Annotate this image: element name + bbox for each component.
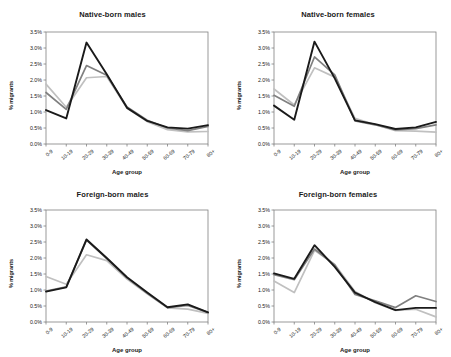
y-axis-tick-label: 3.5% xyxy=(16,207,42,213)
plot-frame xyxy=(274,210,436,322)
y-axis-tick-label: 2.0% xyxy=(244,255,270,261)
y-axis-tick-label: 1.5% xyxy=(244,271,270,277)
y-axis-tick-label: 1.5% xyxy=(16,271,42,277)
x-axis-title: Age group xyxy=(274,347,436,353)
y-axis-tick-label: 2.5% xyxy=(244,239,270,245)
y-axis-tick-label: 0.0% xyxy=(16,141,42,147)
y-axis-tick-label: 0.5% xyxy=(16,125,42,131)
y-axis-tick-label: 0.5% xyxy=(244,303,270,309)
y-axis-tick-label: 2.0% xyxy=(16,255,42,261)
plot-area: 3.5%3.0%2.5%2.0%1.5%1.0%0.5%0.0%0-910-19… xyxy=(0,180,225,357)
plot-area: 3.5%3.0%2.5%2.0%1.5%1.0%0.5%0.0%0-910-19… xyxy=(225,180,451,357)
y-axis-tick-label: 0.0% xyxy=(16,319,42,325)
plot-frame xyxy=(46,32,208,144)
migration-age-profile-figure: Native-born males 3.5%3.0%2.5%2.0%1.5%1.… xyxy=(0,0,451,357)
y-axis-tick-label: 2.0% xyxy=(16,77,42,83)
chart-panel-native-born-females: Native-born females 3.5%3.0%2.5%2.0%1.5%… xyxy=(225,0,451,180)
y-axis-tick-label: 3.0% xyxy=(244,45,270,51)
x-axis-title: Age group xyxy=(46,169,208,175)
y-axis-title: % migrants xyxy=(8,81,14,110)
x-axis-title: Age group xyxy=(274,169,436,175)
y-axis-tick-label: 2.5% xyxy=(16,61,42,67)
plot-area: 3.5%3.0%2.5%2.0%1.5%1.0%0.5%0.0%0-910-19… xyxy=(0,0,225,180)
y-axis-tick-label: 3.0% xyxy=(16,223,42,229)
y-axis-tick-label: 3.5% xyxy=(244,29,270,35)
y-axis-tick-label: 2.5% xyxy=(244,61,270,67)
y-axis-tick-label: 3.5% xyxy=(244,207,270,213)
y-axis-tick-label: 1.0% xyxy=(16,287,42,293)
chart-panel-native-born-males: Native-born males 3.5%3.0%2.5%2.0%1.5%1.… xyxy=(0,0,225,180)
y-axis-tick-label: 1.0% xyxy=(244,109,270,115)
y-axis-tick-label: 0.0% xyxy=(244,319,270,325)
chart-panel-foreign-born-males: Foreign-born males 3.5%3.0%2.5%2.0%1.5%1… xyxy=(0,180,225,357)
y-axis-tick-label: 0.5% xyxy=(16,303,42,309)
chart-panel-foreign-born-females: Foreign-born females 3.5%3.0%2.5%2.0%1.5… xyxy=(225,180,451,357)
y-axis-title: % migrants xyxy=(236,81,242,110)
y-axis-tick-label: 1.0% xyxy=(244,287,270,293)
y-axis-tick-label: 3.5% xyxy=(16,29,42,35)
y-axis-tick-label: 3.0% xyxy=(244,223,270,229)
y-axis-tick-label: 1.0% xyxy=(16,109,42,115)
x-axis-title: Age group xyxy=(46,347,208,353)
y-axis-tick-label: 2.5% xyxy=(16,239,42,245)
y-axis-tick-label: 0.0% xyxy=(244,141,270,147)
y-axis-tick-label: 3.0% xyxy=(16,45,42,51)
y-axis-title: % migrants xyxy=(236,259,242,288)
y-axis-tick-label: 1.5% xyxy=(244,93,270,99)
y-axis-tick-label: 2.0% xyxy=(244,77,270,83)
plot-area: 3.5%3.0%2.5%2.0%1.5%1.0%0.5%0.0%0-910-19… xyxy=(225,0,451,180)
y-axis-title: % migrants xyxy=(8,259,14,288)
y-axis-tick-label: 0.5% xyxy=(244,125,270,131)
y-axis-tick-label: 1.5% xyxy=(16,93,42,99)
